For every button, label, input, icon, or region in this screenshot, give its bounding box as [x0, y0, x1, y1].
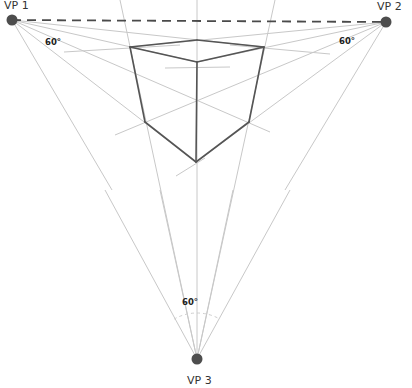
vp1-dot	[7, 15, 18, 26]
vp3-label: VP 3	[187, 374, 212, 387]
cube-edge	[197, 40, 264, 47]
cube-edge	[130, 47, 197, 62]
vp1-label: VP 1	[4, 0, 29, 12]
cube-edge	[196, 62, 197, 162]
guide-line	[160, 190, 197, 359]
angle-label-vp3: 60°	[182, 297, 198, 307]
perspective-diagram: 60° 60° 60° VP 1 VP 2 VP 3	[0, 0, 412, 388]
guide-line	[64, 45, 180, 52]
guide-line	[285, 22, 386, 190]
vp2-label: VP 2	[377, 0, 402, 13]
horizon-line	[12, 20, 386, 22]
guide-line	[230, 45, 330, 54]
cube-edge	[197, 47, 264, 62]
cube-edge	[249, 47, 264, 122]
guide-line	[12, 20, 112, 190]
guide-line	[197, 190, 233, 359]
cube-edge	[130, 47, 145, 122]
guide-line	[105, 190, 197, 359]
vp3-dot	[192, 354, 203, 365]
cube-edge	[145, 122, 196, 162]
angle-label-vp2: 60°	[339, 36, 355, 46]
guide-line	[197, 190, 290, 359]
vp2-dot	[381, 17, 392, 28]
guide-lines	[12, 0, 386, 359]
guide-line	[176, 158, 205, 176]
angle-label-vp1: 60°	[45, 37, 61, 47]
